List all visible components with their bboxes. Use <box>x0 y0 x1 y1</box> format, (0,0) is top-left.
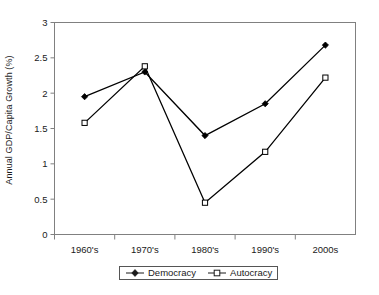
legend-item-democracy: Democracy <box>125 268 196 278</box>
chart-plot: 00.511.522.531960's1970's1980's1990's200… <box>0 0 379 295</box>
chart-legend: Democracy Autocracy <box>119 266 278 280</box>
data-point-autocracy-1 <box>142 64 147 69</box>
y-axis-tick-label: 1.5 <box>34 123 47 134</box>
y-axis-tick-label: 3 <box>42 17 47 28</box>
legend-item-autocracy: Autocracy <box>207 268 272 278</box>
x-axis-tick-label: 2000s <box>312 244 338 255</box>
data-point-autocracy-2 <box>202 200 207 205</box>
x-axis-tick-label: 1980's <box>191 244 219 255</box>
data-point-autocracy-0 <box>82 120 87 125</box>
open-square-icon <box>207 268 227 278</box>
y-axis-tick-label: 2 <box>42 88 47 99</box>
data-point-autocracy-3 <box>263 149 268 154</box>
data-point-democracy-0 <box>82 94 88 100</box>
x-axis-tick-label: 1990's <box>251 244 279 255</box>
x-axis-tick-label: 1960's <box>71 244 99 255</box>
y-axis-tick-label: 0 <box>42 229 47 240</box>
y-axis-tick-label: 0.5 <box>34 194 47 205</box>
x-axis-tick-label: 1970's <box>131 244 159 255</box>
legend-label-democracy: Democracy <box>148 268 196 278</box>
filled-diamond-icon <box>125 268 145 278</box>
legend-label-autocracy: Autocracy <box>230 268 272 278</box>
y-axis-tick-label: 2.5 <box>34 52 47 63</box>
data-point-autocracy-4 <box>323 75 328 80</box>
chart-container: Annual GDP/Capita Growth (%) 00.511.522.… <box>0 0 379 295</box>
y-axis-tick-label: 1 <box>42 158 47 169</box>
